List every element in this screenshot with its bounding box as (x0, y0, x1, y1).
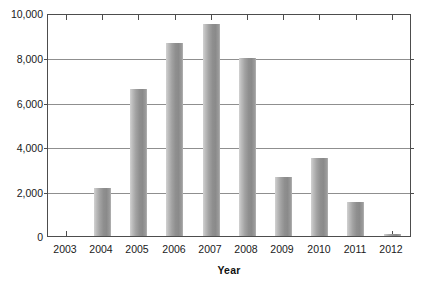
x-axis-tick-label: 2011 (335, 243, 375, 255)
x-axis-tick-label: 2007 (190, 243, 230, 255)
bar (203, 24, 220, 236)
x-axis-tick (138, 15, 139, 20)
bar (384, 234, 401, 236)
y-axis-tick (410, 193, 414, 194)
x-axis-tick (66, 231, 67, 236)
y-axis-tick (410, 59, 414, 60)
y-axis-tick (44, 104, 48, 105)
bar (311, 158, 328, 236)
y-axis-tick (44, 59, 48, 60)
x-axis-tick-label: 2004 (81, 243, 121, 255)
x-axis-tick-label: 2009 (262, 243, 302, 255)
gridline-6000 (48, 104, 410, 105)
y-axis-tick-label: 10,000 (1, 9, 43, 19)
x-axis-tick (175, 15, 176, 20)
y-axis-tick-label: 2,000 (1, 188, 43, 198)
bar (347, 202, 364, 236)
x-axis-tick (319, 15, 320, 20)
y-axis-tick (44, 148, 48, 149)
bar (130, 89, 147, 236)
x-axis-tick-label: 2008 (226, 243, 266, 255)
y-axis-tick-label: 6,000 (1, 99, 43, 109)
y-axis-tick-label: 0 (1, 232, 43, 242)
y-axis-tick (44, 193, 48, 194)
bar (166, 43, 183, 236)
bar (275, 177, 292, 236)
x-axis-tick (102, 15, 103, 20)
y-axis-tick-label: 8,000 (1, 54, 43, 64)
plot-area (47, 14, 411, 237)
x-axis-tick-label: 2003 (45, 243, 85, 255)
bar-chart: 10,000 8,000 6,000 4,000 2,000 0 (0, 0, 423, 283)
x-axis-tick-label: 2006 (154, 243, 194, 255)
x-axis-tick-label: 2010 (299, 243, 339, 255)
y-axis-tick (410, 104, 414, 105)
x-axis-tick-label: 2005 (117, 243, 157, 255)
y-axis-tick-label: 4,000 (1, 143, 43, 153)
bar (239, 58, 256, 236)
x-axis-tick (211, 15, 212, 20)
gridline-4000 (48, 148, 410, 149)
x-axis-title: Year (47, 264, 411, 276)
y-axis-tick (410, 148, 414, 149)
x-axis-tick (392, 15, 393, 20)
gridline-8000 (48, 59, 410, 60)
x-axis-tick-label: 2012 (371, 243, 411, 255)
bar (94, 188, 111, 236)
x-axis-tick (247, 15, 248, 20)
x-axis-tick (283, 15, 284, 20)
x-axis-tick (356, 15, 357, 20)
x-axis-tick (66, 15, 67, 20)
y-axis-label-group: 10,000 8,000 6,000 4,000 2,000 0 (0, 0, 43, 283)
